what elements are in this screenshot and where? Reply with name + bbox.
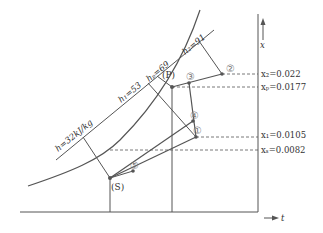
x-axis-arrow-icon [264, 216, 279, 221]
enthalpy-label-h2: h₂=91 [180, 32, 207, 57]
humidity-label-xp: xₚ=0.0177 [261, 82, 306, 92]
psychrometric-diagram: t x h=32kJ/kg h₁=53 hₚ=69 h₂=91 x₂=0.022… [0, 0, 323, 233]
humidity-label-xs: xₛ=0.0082 [261, 145, 306, 155]
y-axis-arrow-icon [261, 18, 266, 40]
point-1-label: ① [193, 125, 202, 136]
point-3-label: ③ [186, 71, 195, 82]
line-S-1 [110, 137, 196, 178]
point-2-label: ② [226, 63, 235, 74]
saturation-curve [28, 10, 200, 186]
humidity-label-x1: x₁=0.0105 [261, 130, 306, 140]
x-axis-label: t [281, 213, 285, 223]
humidity-label-x2: x₂=0.022 [261, 69, 301, 79]
line-P-2 [172, 74, 222, 87]
point-S-label: (S) [111, 182, 124, 192]
line-S-4 [110, 121, 193, 178]
point-2-marker [220, 72, 224, 76]
y-axis-label: x [260, 40, 265, 50]
enthalpy-label-hS: h=32kJ/kg [53, 117, 95, 154]
enthalpy-line-hS [83, 137, 110, 178]
point-5-label: ⑤ [130, 160, 139, 171]
point-P-marker [170, 85, 174, 89]
point-4-label: ④ [190, 110, 199, 121]
enthalpy-line-h2 [199, 41, 222, 74]
point-P-label: (P) [162, 70, 175, 80]
point-S-marker [108, 176, 112, 180]
